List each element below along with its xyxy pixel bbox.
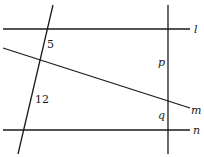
left-transversal bbox=[18, 5, 53, 154]
label-n: n bbox=[193, 124, 200, 137]
geometry-diagram: l m n 5 12 p q bbox=[0, 0, 204, 157]
label-q: q bbox=[158, 109, 165, 122]
label-m: m bbox=[191, 104, 201, 117]
label-5: 5 bbox=[47, 38, 54, 51]
label-p: p bbox=[158, 56, 165, 69]
label-l: l bbox=[194, 23, 198, 36]
label-12: 12 bbox=[35, 93, 49, 106]
